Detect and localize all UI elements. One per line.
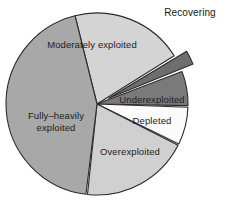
pie-chart: Moderately exploitedRecoveringUnderexplo… bbox=[0, 0, 236, 214]
slice-label-depleted: Depleted bbox=[133, 115, 172, 126]
outside-label-recovering: Recovering bbox=[164, 7, 216, 18]
slice-label-underexploited: Underexploited bbox=[119, 94, 184, 105]
pie-chart-canvas: Moderately exploitedRecoveringUnderexplo… bbox=[0, 0, 236, 214]
label-line: exploited bbox=[37, 122, 76, 133]
label-line: Fully–heavily bbox=[28, 110, 84, 121]
label-line: Underexploited bbox=[119, 94, 184, 105]
label-line: Overexploited bbox=[100, 146, 160, 157]
slice-label-moderately-exploited: Moderately exploited bbox=[47, 39, 137, 50]
label-line: Moderately exploited bbox=[47, 39, 137, 50]
label-line: Depleted bbox=[133, 115, 172, 126]
label-line: Recovering bbox=[164, 7, 216, 18]
slice-label-overexploited: Overexploited bbox=[100, 146, 160, 157]
